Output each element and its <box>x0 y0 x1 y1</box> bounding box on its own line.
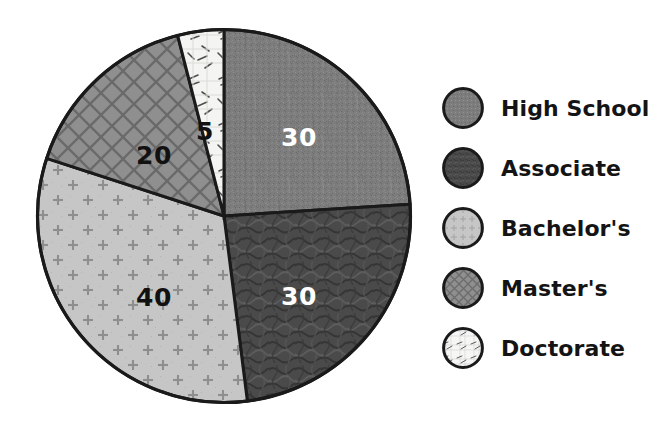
legend-label-masters: Master's <box>501 276 608 301</box>
legend-item-doctorate[interactable]: Doctorate <box>441 318 655 378</box>
legend-item-masters[interactable]: Master's <box>441 258 655 318</box>
associate-swatch-icon <box>441 146 485 190</box>
legend-item-bachelors[interactable]: Bachelor's <box>441 198 655 258</box>
pie-slices-group <box>38 30 411 403</box>
high-school-swatch-icon <box>441 86 485 130</box>
legend-item-high-school[interactable]: High School <box>441 78 655 138</box>
doctorate-swatch-icon <box>441 326 485 370</box>
legend-label-bachelors: Bachelor's <box>501 216 631 241</box>
legend-label-associate: Associate <box>501 156 621 181</box>
pie-chart-figure: 303040205 High School Associate Bachelor… <box>0 0 659 436</box>
pie-slice-high-school[interactable] <box>224 30 410 217</box>
bachelors-swatch-icon <box>441 206 485 250</box>
legend-label-high-school: High School <box>501 96 649 121</box>
chart-legend: High School Associate Bachelor's Master'… <box>441 78 655 378</box>
legend-label-doctorate: Doctorate <box>501 336 625 361</box>
legend-item-associate[interactable]: Associate <box>441 138 655 198</box>
pie-slice-associate[interactable] <box>224 204 410 401</box>
pie-chart-plot-area: 303040205 <box>35 27 413 405</box>
masters-swatch-icon <box>441 266 485 310</box>
pie-chart-svg <box>35 27 413 405</box>
